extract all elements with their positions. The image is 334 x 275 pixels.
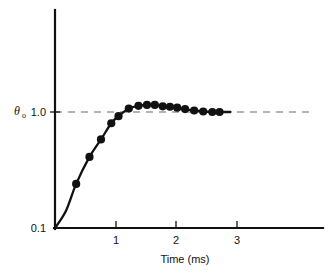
data-point [166, 103, 174, 111]
data-point [151, 101, 159, 109]
data-point [159, 102, 167, 110]
data-point [215, 108, 223, 116]
x-axis-title: Time (ms) [160, 253, 209, 265]
data-point [107, 119, 115, 127]
x-tick-label-2: 2 [173, 234, 179, 246]
y-tick-label-0p1: 0.1 [31, 222, 46, 234]
data-point [181, 105, 189, 113]
data-point [72, 180, 80, 188]
data-point [143, 101, 151, 109]
y-tick-label-1p0: 1.0 [31, 106, 46, 118]
data-point [134, 102, 142, 110]
data-point [125, 104, 133, 112]
x-tick-label-1: 1 [113, 234, 119, 246]
x-tick-label-3: 3 [234, 234, 240, 246]
chart-figure: 1.0 0.1 θ o 1 2 3 Time (ms) [0, 0, 334, 275]
data-point [97, 135, 105, 143]
data-point [114, 112, 122, 120]
data-point [190, 106, 198, 114]
data-point [199, 107, 207, 115]
data-point [173, 104, 181, 112]
y-axis-symbol-subscript: o [22, 111, 26, 120]
data-point [208, 108, 216, 116]
chart-background [0, 0, 334, 275]
y-axis-symbol: θ [14, 104, 20, 118]
step-response-chart: 1.0 0.1 θ o 1 2 3 Time (ms) [0, 0, 334, 275]
data-point [85, 153, 93, 161]
